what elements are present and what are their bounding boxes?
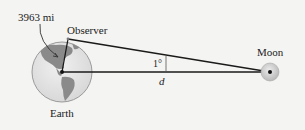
observer-to-moon-line	[68, 39, 270, 72]
radius-label: 3963 mi	[18, 12, 54, 23]
moon-label: Moon	[257, 47, 283, 58]
observer-point	[67, 38, 70, 41]
earth-center-point	[60, 70, 64, 74]
observer-label: Observer	[67, 25, 107, 36]
angle-label: 1°	[153, 59, 162, 69]
earth-label: Earth	[50, 108, 74, 119]
distance-label: d	[159, 76, 165, 87]
earth-moon-parallax-diagram: 3963 mi Observer Earth Moon 1° d	[0, 0, 305, 130]
moon	[261, 63, 279, 81]
